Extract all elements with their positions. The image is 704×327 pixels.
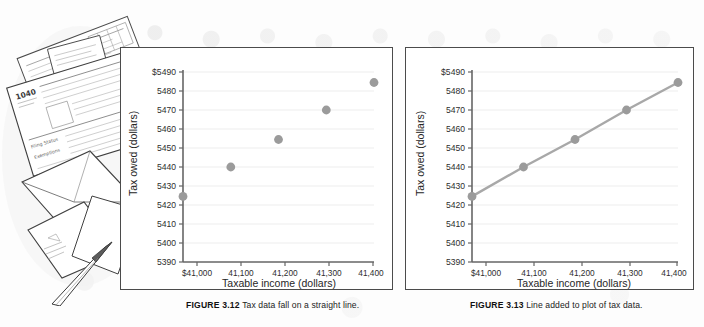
svg-text:$41,000: $41,000 [182,268,212,278]
svg-text:5390: 5390 [446,257,465,267]
figure-3-12-caption-lead: FIGURE 3.12 [186,300,240,310]
data-point [674,78,683,87]
svg-text:5390: 5390 [157,257,176,267]
svg-text:41,400: 41,400 [661,268,687,278]
svg-text:5400: 5400 [446,238,465,248]
svg-text:5460: 5460 [157,124,176,134]
figure-3-12-caption-body: Tax data fall on a straight line. [242,300,359,310]
svg-text:5450: 5450 [157,143,176,153]
svg-text:5480: 5480 [157,86,176,96]
data-point [622,106,631,115]
svg-text:5400: 5400 [157,238,176,248]
svg-text:41,400: 41,400 [358,268,384,278]
figure-3-13-caption-lead: FIGURE 3.13 [470,300,524,310]
data-point [370,78,379,87]
data-point [571,135,580,144]
y-axis-title: Tax owed (dollars) [414,111,426,196]
svg-text:5420: 5420 [157,200,176,210]
svg-text:5410: 5410 [446,219,465,229]
svg-text:5440: 5440 [157,162,176,172]
svg-text:5460: 5460 [446,124,465,134]
svg-text:5410: 5410 [157,219,176,229]
figure-3-12: Tax owed (dollars) [120,47,393,290]
data-point [468,192,477,201]
data-point [226,163,235,172]
svg-text:5480: 5480 [446,86,465,96]
data-point [179,192,188,201]
svg-text:5430: 5430 [157,181,176,191]
svg-text:5470: 5470 [157,105,176,115]
svg-text:5470: 5470 [446,105,465,115]
figure-3-13: Tax owed (dollars) [405,47,694,290]
svg-text:$41,000: $41,000 [471,268,501,278]
x-axis-title: Taxable income (dollars) [222,277,336,289]
y-axis-tick-labels: $5490 5480 5470 5460 5450 5440 5430 5420… [152,67,176,267]
svg-text:5430: 5430 [446,181,465,191]
data-point [519,163,528,172]
scatter-chart: Tax owed (dollars) [121,48,392,289]
figure-3-12-caption: FIGURE 3.12 Tax data fall on a straight … [186,300,359,310]
data-point [274,135,283,144]
x-axis-title: Taxable income (dollars) [517,277,631,289]
svg-text:5440: 5440 [446,162,465,172]
svg-text:$5490: $5490 [441,67,465,77]
figure-3-13-caption: FIGURE 3.13 Line added to plot of tax da… [470,300,643,310]
figure-3-13-caption-body: Line added to plot of tax data. [526,300,642,310]
chart-panel-scatter: Tax owed (dollars) [120,47,393,290]
y-axis-tick-labels: $5490 5480 5470 5460 5450 5440 5430 5420… [441,67,465,267]
data-point [322,106,331,115]
line-chart: Tax owed (dollars) [406,48,693,289]
svg-text:$5490: $5490 [152,67,176,77]
svg-text:5450: 5450 [446,143,465,153]
data-points [179,78,379,201]
gridlines [183,72,374,243]
chart-panel-line: Tax owed (dollars) [405,47,694,290]
svg-text:5420: 5420 [446,200,465,210]
y-axis-title: Tax owed (dollars) [127,111,139,196]
figure-page: 1040 Filing Status Exemptions [0,0,704,327]
